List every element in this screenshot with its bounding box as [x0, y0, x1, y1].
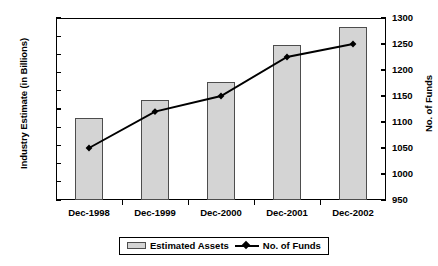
y-tick-left-60 [56, 90, 61, 91]
y-tick-left-100 [56, 17, 61, 18]
x-tick-mark-3 [254, 200, 255, 205]
y-tick-left-80 [56, 54, 61, 55]
x-tick-label-Dec-2001: Dec-2001 [254, 207, 320, 218]
x-tick-label-Dec-2002: Dec-2002 [320, 207, 386, 218]
legend-label-estimated-assets: Estimated Assets [150, 240, 229, 251]
y-tick-left-20 [56, 163, 61, 164]
y-tick-label-right-950: 950 [392, 195, 426, 205]
x-tick-label-Dec-1999: Dec-1999 [122, 207, 188, 218]
y-tick-right-1200 [381, 69, 386, 70]
bar-Dec-1998 [75, 118, 103, 200]
y-tick-left-50 [56, 108, 61, 109]
y-tick-right-1100 [381, 121, 386, 122]
line-diamond-swatch-icon [235, 241, 259, 250]
x-tick-mark-2 [188, 200, 189, 205]
legend-label-no-of-funds: No. of Funds [263, 240, 321, 251]
y-tick-label-right-1100: 1100 [392, 117, 426, 127]
chart-container: Industry Estimate (in Billions) No. of F… [0, 0, 438, 266]
bar-Dec-2000 [207, 82, 235, 200]
bar-Dec-2002 [339, 27, 367, 200]
y-tick-left-10 [56, 181, 61, 182]
y-tick-left-90 [56, 36, 61, 37]
y-tick-left-30 [56, 145, 61, 146]
x-tick-label-Dec-1998: Dec-1998 [56, 207, 122, 218]
bar-Dec-2001 [273, 45, 301, 200]
bar-Dec-1999 [141, 100, 169, 200]
legend-item-estimated-assets: Estimated Assets [127, 240, 229, 251]
y-tick-right-1250 [381, 43, 386, 44]
y-tick-left-70 [56, 72, 61, 73]
y-tick-label-right-1250: 1250 [392, 39, 426, 49]
y-tick-left-40 [56, 127, 61, 128]
y-tick-label-right-1300: 1300 [392, 13, 426, 23]
chart-legend: Estimated Assets No. of Funds [119, 237, 329, 255]
y-tick-right-1050 [381, 147, 386, 148]
y-tick-right-1300 [381, 17, 386, 18]
y-tick-right-1150 [381, 95, 386, 96]
x-tick-mark-1 [122, 200, 123, 205]
y-tick-label-right-1000: 1000 [392, 169, 426, 179]
y-tick-label-right-1200: 1200 [392, 65, 426, 75]
x-tick-mark-4 [320, 200, 321, 205]
y-tick-label-right-1050: 1050 [392, 143, 426, 153]
y-tick-label-right-1150: 1150 [392, 91, 426, 101]
bar-swatch-icon [127, 242, 146, 249]
y-axis-left-title: Industry Estimate (in Billions) [18, 9, 29, 199]
legend-item-no-of-funds: No. of Funds [235, 240, 321, 251]
x-tick-label-Dec-2000: Dec-2000 [188, 207, 254, 218]
y-tick-right-950 [381, 199, 386, 200]
y-tick-left-0 [56, 199, 61, 200]
y-tick-right-1000 [381, 173, 386, 174]
